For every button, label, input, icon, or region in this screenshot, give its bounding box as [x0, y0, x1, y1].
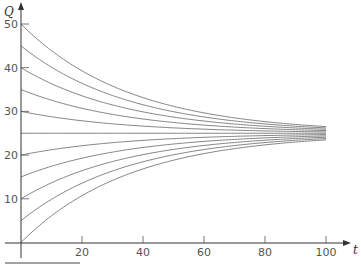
curve-q0-10: [21, 137, 326, 199]
y-axis-label: Q: [4, 5, 14, 19]
chart: 20406080100 1020304050 Q t: [0, 0, 361, 267]
y-tick-label: 50: [4, 18, 18, 31]
curve-q0-0: [21, 140, 326, 243]
x-ticks: 20406080100: [75, 236, 337, 259]
y-tick-label: 20: [4, 149, 18, 162]
x-tick-label: 80: [258, 246, 272, 259]
curve-q0-35: [21, 90, 326, 131]
x-tick-label: 40: [136, 246, 150, 259]
curve-q0-40: [21, 68, 326, 130]
x-axis-label: t: [353, 243, 358, 257]
curve-q0-5: [21, 139, 326, 221]
axes: 20406080100 1020304050 Q t: [4, 2, 358, 259]
y-axis-arrow-icon: [18, 2, 24, 10]
x-tick-label: 60: [197, 246, 211, 259]
solution-curves: [21, 24, 326, 243]
curve-q0-50: [21, 24, 326, 127]
x-tick-label: 20: [75, 246, 89, 259]
y-tick-label: 30: [4, 105, 18, 118]
curve-q0-45: [21, 46, 326, 128]
x-tick-label: 100: [316, 246, 337, 259]
y-tick-label: 10: [4, 193, 18, 206]
curve-q0-15: [21, 136, 326, 177]
x-axis-arrow-icon: [343, 240, 351, 246]
y-tick-label: 40: [4, 62, 18, 75]
